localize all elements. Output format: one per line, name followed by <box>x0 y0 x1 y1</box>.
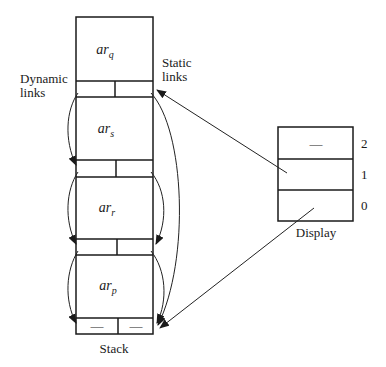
dynamic-links-label-line2: links <box>20 85 45 100</box>
display-row-2-value: — <box>309 136 324 151</box>
display-index-2: 2 <box>361 136 368 151</box>
static-links-label-line1: Static <box>162 55 192 70</box>
display-index-1: 1 <box>361 167 368 182</box>
dynamic-links-label-line1: Dynamic <box>20 71 68 86</box>
frame-ar-p: arp <box>99 278 116 296</box>
static-link-arrows <box>151 93 179 325</box>
display: — 2 1 0 Display <box>278 127 368 240</box>
bottom-dynamic-link-value: — <box>90 318 105 333</box>
activation-record-diagram: arq ars arr arp — — Stack Dynamic links … <box>0 0 386 367</box>
frame-ar-s: ars <box>98 121 114 139</box>
bottom-static-link-value: — <box>129 318 144 333</box>
static-links-label-line2: links <box>162 69 187 84</box>
display-pointer-arrows <box>157 90 314 328</box>
stack-label: Stack <box>100 341 129 356</box>
frame-ar-r: arr <box>99 200 115 218</box>
frame-ar-q: arq <box>96 42 113 60</box>
stack: arq ars arr arp — — Stack <box>76 17 153 356</box>
display-index-0: 0 <box>361 198 368 213</box>
display-label: Display <box>296 225 337 240</box>
